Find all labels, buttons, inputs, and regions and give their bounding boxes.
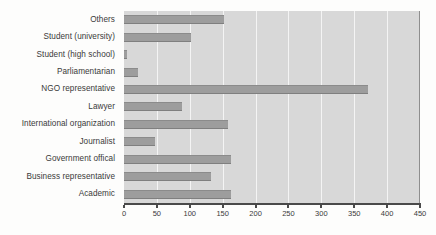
tick-mark (123, 205, 125, 208)
tick-mark (419, 205, 421, 208)
category-axis-labels: OthersStudent (university)Student (high … (0, 11, 120, 203)
category-label: International organization (0, 116, 120, 133)
bar-row (124, 81, 419, 98)
bar[interactable] (124, 102, 182, 111)
bar[interactable] (124, 50, 127, 59)
category-label: Journalist (0, 133, 120, 150)
bar[interactable] (124, 33, 191, 42)
tick-mark (353, 205, 355, 208)
tick-mark (287, 205, 289, 208)
bars-layer (124, 11, 419, 203)
bar[interactable] (124, 85, 368, 94)
plot-area (124, 11, 420, 203)
bar-chart: OthersStudent (university)Student (high … (0, 0, 436, 235)
category-label: NGO representative (0, 81, 120, 98)
tick-mark (320, 205, 322, 208)
bar[interactable] (124, 172, 211, 181)
bar-row (124, 98, 419, 115)
category-label: Student (university) (0, 28, 120, 45)
category-label: Parliamentarian (0, 63, 120, 80)
bar-row (124, 63, 419, 80)
bar[interactable] (124, 190, 231, 199)
bar-row (124, 46, 419, 63)
category-label: Lawyer (0, 98, 120, 115)
tick-mark (255, 205, 257, 208)
x-axis-ticks: 050100150200250300350400450 (124, 205, 421, 231)
bar[interactable] (124, 68, 138, 77)
bar[interactable] (124, 155, 231, 164)
tick-label: 250 (282, 210, 295, 218)
tick-label: 50 (153, 210, 161, 218)
tick-label: 200 (249, 210, 262, 218)
tick-label: 150 (216, 210, 229, 218)
bar-row (124, 151, 419, 168)
bar-row (124, 28, 419, 45)
tick-label: 400 (381, 210, 394, 218)
tick-mark (156, 205, 158, 208)
bar-row (124, 116, 419, 133)
tick-label: 300 (315, 210, 328, 218)
tick-mark (189, 205, 191, 208)
bar-row (124, 168, 419, 185)
bar-row (124, 11, 419, 28)
tick-label: 350 (348, 210, 361, 218)
tick-mark (222, 205, 224, 208)
bar[interactable] (124, 15, 224, 24)
category-label: Business representative (0, 168, 120, 185)
category-label: Government offical (0, 151, 120, 168)
tick-label: 100 (184, 210, 197, 218)
bar-row (124, 133, 419, 150)
category-label: Student (high school) (0, 46, 120, 63)
bar-row (124, 186, 419, 203)
category-label: Others (0, 11, 120, 28)
bar[interactable] (124, 120, 228, 129)
category-label: Academic (0, 186, 120, 203)
bar[interactable] (124, 137, 155, 146)
tick-label: 0 (122, 210, 126, 218)
tick-mark (386, 205, 388, 208)
tick-label: 450 (414, 210, 427, 218)
